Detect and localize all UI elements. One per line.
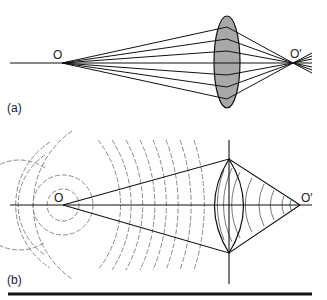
panel-b: O O′ (b)	[0, 131, 313, 287]
panel-label-b: (b)	[7, 273, 22, 287]
panel-label-a: (a)	[7, 101, 22, 115]
object-label-a: O	[53, 48, 62, 62]
image-label-b: O′	[301, 191, 313, 205]
panel-a: O O′ (a)	[7, 16, 312, 115]
marginal-rays	[63, 159, 300, 253]
light-rays	[62, 27, 312, 99]
object-label-b: O	[54, 191, 63, 205]
image-label-a: O′	[290, 47, 302, 61]
lens-diagram: O O′ (a)	[0, 0, 327, 300]
